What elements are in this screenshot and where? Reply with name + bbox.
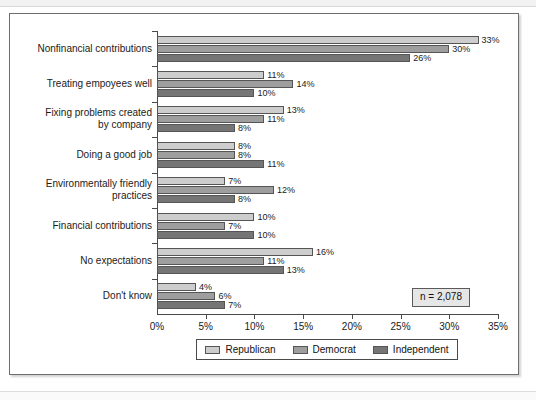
bar-value-label: 16% xyxy=(313,247,334,256)
legend-item-democrat[interactable]: Democrat xyxy=(293,344,356,355)
bar-track: 7% xyxy=(157,177,498,185)
chart-figure: Nonfinancial contributionsTreating empoy… xyxy=(9,13,519,375)
legend-label: Independent xyxy=(393,344,449,355)
bar-value-label: 8% xyxy=(235,124,251,133)
category-label-line: No expectations xyxy=(20,255,152,267)
x-axis-tick-label: 0% xyxy=(150,321,164,332)
category-label: Nonfinancial contributions xyxy=(20,43,152,55)
legend-swatch-independent xyxy=(373,346,388,354)
category-label-line: Fixing problems created xyxy=(20,107,152,119)
bar-track: 12% xyxy=(157,186,498,194)
y-axis-category-labels: Nonfinancial contributionsTreating empoy… xyxy=(18,31,152,314)
bar-value-label: 11% xyxy=(264,159,284,168)
bar-value-label: 4% xyxy=(196,283,212,292)
bar-track: 8% xyxy=(157,195,498,203)
legend-label: Democrat xyxy=(313,344,356,355)
legend-item-republican[interactable]: Republican xyxy=(205,344,275,355)
category-label: Treating empoyees well xyxy=(20,78,152,90)
category-label-line: Don't know xyxy=(20,290,152,302)
bar-independent[interactable] xyxy=(157,89,254,97)
bar-track: 30% xyxy=(157,45,498,53)
bar-track: 8% xyxy=(157,151,498,159)
category-label: Don't know xyxy=(20,290,152,302)
bar-democrat[interactable] xyxy=(157,257,264,265)
x-axis-tick-label: 15% xyxy=(293,321,313,332)
bar-value-label: 11% xyxy=(264,115,284,124)
x-axis-tick xyxy=(449,314,450,319)
bar-value-label: 10% xyxy=(254,230,275,239)
bar-democrat[interactable] xyxy=(157,186,274,194)
scan-bottom-edge xyxy=(0,391,536,400)
y-axis-tick xyxy=(152,173,157,174)
bar-independent[interactable] xyxy=(157,124,235,132)
category-group: 8%8%11% xyxy=(157,137,498,172)
bar-independent[interactable] xyxy=(157,231,254,239)
bar-republican[interactable] xyxy=(157,71,264,79)
bar-independent[interactable] xyxy=(157,160,264,168)
bar-value-label: 10% xyxy=(254,212,275,221)
category-label-line: Environmentally friendly xyxy=(20,178,152,190)
bar-value-label: 12% xyxy=(274,186,295,195)
x-axis-tick xyxy=(352,314,353,319)
bar-democrat[interactable] xyxy=(157,222,225,230)
chart-legend: RepublicanDemocratIndependent xyxy=(196,339,458,360)
y-axis-tick xyxy=(152,208,157,209)
bar-value-label: 13% xyxy=(284,106,305,115)
legend-swatch-republican xyxy=(205,346,220,354)
bar-republican[interactable] xyxy=(157,36,479,44)
y-axis-tick xyxy=(152,137,157,138)
bar-independent[interactable] xyxy=(157,54,410,62)
bar-value-label: 8% xyxy=(235,195,251,204)
bar-democrat[interactable] xyxy=(157,151,235,159)
bar-track: 8% xyxy=(157,142,498,150)
x-axis-tick-label: 35% xyxy=(488,321,508,332)
bar-track: 11% xyxy=(157,257,498,265)
category-label-line: Doing a good job xyxy=(20,149,152,161)
sample-size-callout: n = 2,078 xyxy=(412,288,470,307)
bar-value-label: 33% xyxy=(479,35,500,44)
bar-value-label: 11% xyxy=(264,256,284,265)
plot-area: 33%30%26%11%14%10%13%11%8%8%8%11%7%12%8%… xyxy=(157,31,498,314)
x-axis-tick xyxy=(498,314,499,319)
bar-value-label: 30% xyxy=(449,44,470,53)
bar-track: 7% xyxy=(157,222,498,230)
bar-republican[interactable] xyxy=(157,283,196,291)
bar-republican[interactable] xyxy=(157,106,284,114)
bar-track: 16% xyxy=(157,248,498,256)
bar-track: 33% xyxy=(157,36,498,44)
bar-independent[interactable] xyxy=(157,195,235,203)
scan-top-edge xyxy=(0,0,536,7)
bar-value-label: 14% xyxy=(293,80,314,89)
category-label: Doing a good job xyxy=(20,149,152,161)
bar-republican[interactable] xyxy=(157,248,313,256)
bar-track: 10% xyxy=(157,231,498,239)
bar-value-label: 10% xyxy=(254,89,275,98)
bar-independent[interactable] xyxy=(157,266,284,274)
bar-track: 10% xyxy=(157,213,498,221)
bar-democrat[interactable] xyxy=(157,292,215,300)
category-label: Fixing problems createdby company xyxy=(20,107,152,131)
y-axis-tick xyxy=(152,279,157,280)
category-label-line: Financial contributions xyxy=(20,220,152,232)
bar-independent[interactable] xyxy=(157,301,225,309)
bar-value-label: 26% xyxy=(410,53,431,62)
bar-track: 26% xyxy=(157,54,498,62)
bar-value-label: 7% xyxy=(225,177,241,186)
bar-track: 13% xyxy=(157,106,498,114)
legend-item-independent[interactable]: Independent xyxy=(373,344,449,355)
bar-value-label: 7% xyxy=(225,301,241,310)
x-axis-tick-label: 20% xyxy=(342,321,362,332)
bar-track: 11% xyxy=(157,115,498,123)
y-axis-tick xyxy=(152,102,157,103)
bar-republican[interactable] xyxy=(157,177,225,185)
bar-track: 8% xyxy=(157,124,498,132)
bar-democrat[interactable] xyxy=(157,45,449,53)
x-axis-tick xyxy=(206,314,207,319)
legend-label: Republican xyxy=(225,344,275,355)
x-axis-tick-label: 30% xyxy=(439,321,459,332)
bar-track: 10% xyxy=(157,89,498,97)
x-axis-tick xyxy=(303,314,304,319)
bar-republican[interactable] xyxy=(157,142,235,150)
category-group: 7%12%8% xyxy=(157,173,498,208)
x-axis-tick-label: 5% xyxy=(198,321,212,332)
